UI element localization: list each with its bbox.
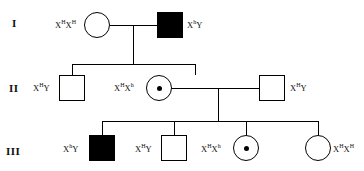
individual-iii-4-female[interactable] bbox=[305, 135, 331, 161]
child-stub-iii-2 bbox=[174, 121, 175, 135]
child-stub-ii-2 bbox=[195, 64, 196, 75]
mating-line-gen2 bbox=[159, 88, 259, 89]
genotype-ii-3-allele2: Y bbox=[300, 83, 306, 93]
genotype-ii-2-sup2: h bbox=[131, 82, 134, 88]
genotype-label-iii-3: XHXh bbox=[201, 145, 221, 154]
sibship-bar-gen2 bbox=[72, 64, 195, 65]
genotype-iii-4-sup2: H bbox=[350, 143, 354, 149]
genotype-iii-1-allele2: Y bbox=[72, 144, 78, 154]
genotype-label-ii-1: XHY bbox=[33, 84, 50, 93]
genotype-label-iii-4: XHXH bbox=[333, 145, 354, 154]
child-stub-iii-1 bbox=[102, 121, 103, 135]
pedigree-diagram: I II III XHXH XhY XHY XHXh XHY XhY bbox=[0, 0, 364, 171]
child-stub-iii-4 bbox=[318, 121, 319, 135]
genotype-label-i-2: XhY bbox=[187, 21, 202, 30]
generation-label-iii: III bbox=[6, 146, 20, 157]
individual-i-1-female[interactable] bbox=[84, 12, 110, 38]
generation-label-i: I bbox=[12, 18, 17, 29]
child-stub-ii-1 bbox=[72, 64, 73, 75]
carrier-dot-icon-ii-2 bbox=[157, 86, 162, 91]
descent-line-gen1 bbox=[133, 25, 134, 64]
individual-iii-1-male[interactable] bbox=[89, 135, 115, 161]
genotype-i-1-sup2: H bbox=[72, 19, 76, 25]
genotype-label-i-1: XHXH bbox=[55, 21, 76, 30]
genotype-label-ii-3: XHY bbox=[290, 84, 307, 93]
genotype-label-ii-2: XHXh bbox=[114, 84, 134, 93]
genotype-i-2-allele2: Y bbox=[196, 20, 202, 30]
genotype-iii-3-sup2: h bbox=[218, 143, 221, 149]
sibship-bar-gen3 bbox=[102, 121, 318, 122]
individual-iii-2-male[interactable] bbox=[161, 135, 187, 161]
generation-label-ii: II bbox=[9, 83, 19, 94]
carrier-dot-icon-iii-3 bbox=[244, 146, 249, 151]
genotype-iii-2-allele2: Y bbox=[145, 144, 151, 154]
genotype-label-iii-1: XhY bbox=[63, 145, 78, 154]
descent-line-gen2 bbox=[218, 88, 219, 121]
individual-ii-3-male[interactable] bbox=[259, 75, 285, 101]
genotype-label-iii-2: XHY bbox=[135, 145, 152, 154]
genotype-ii-1-allele2: Y bbox=[43, 83, 49, 93]
child-stub-iii-3 bbox=[246, 121, 247, 135]
individual-ii-1-male[interactable] bbox=[59, 75, 85, 101]
individual-i-2-male[interactable] bbox=[157, 12, 183, 38]
